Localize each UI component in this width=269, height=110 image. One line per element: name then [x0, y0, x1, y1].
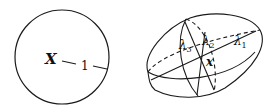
radius-label: 1	[81, 59, 89, 73]
ellipsoid-outline	[147, 14, 262, 97]
center-label: X	[44, 50, 58, 68]
lambda3-label: λ3	[178, 38, 192, 54]
ellipsoid	[147, 14, 262, 97]
radius-line-1	[62, 61, 76, 64]
lambda2-label: λ2	[201, 34, 215, 50]
center-x-label: x	[205, 55, 214, 69]
unit-ball: X 1	[15, 10, 109, 104]
circle-outline	[15, 10, 109, 104]
radius-line-2	[93, 66, 107, 69]
diagram-canvas: X 1 λ3 λ2 λ1 x	[0, 0, 269, 110]
